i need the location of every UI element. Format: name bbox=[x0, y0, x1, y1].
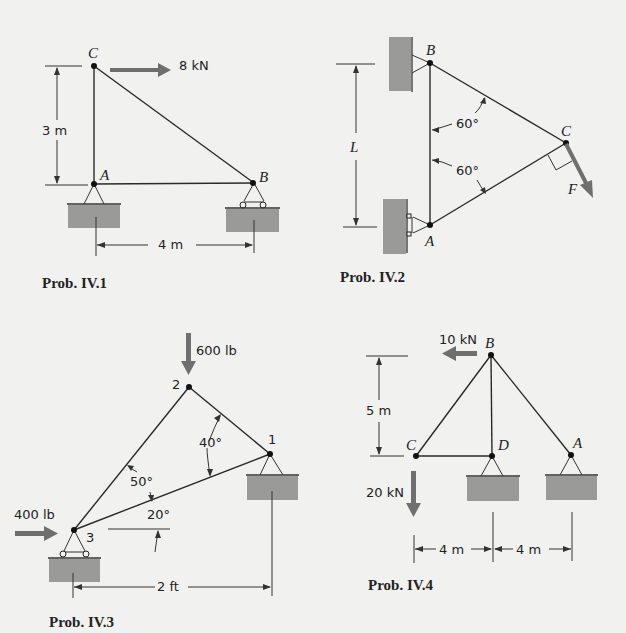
problem-iv-4: B C D A 10 kN 20 kN 5 m bbox=[366, 332, 598, 593]
dim-label-4m-da: 4 m bbox=[516, 542, 541, 557]
load-label-400lb: 400 lb bbox=[14, 507, 55, 522]
angle-label-60-top: 60° bbox=[456, 116, 479, 131]
node-label-a: A bbox=[572, 435, 583, 451]
load-label-f: F bbox=[567, 181, 578, 197]
dim-label-l: L bbox=[349, 139, 358, 155]
right-angle-mark bbox=[548, 155, 572, 170]
node-label-b: B bbox=[426, 42, 435, 58]
dim-label-2ft: 2 ft bbox=[157, 579, 179, 594]
joint-a bbox=[427, 222, 433, 228]
pin-support-a bbox=[545, 455, 598, 500]
roller-support-b bbox=[225, 183, 280, 232]
truss-problems-figure: C A B 8 kN 3 m 4 m Prob. IV.1 bbox=[0, 0, 626, 633]
problem-iv-3: 2 1 3 600 lb 400 lb 40° 50° bbox=[14, 333, 299, 630]
angle-label-40: 40° bbox=[199, 435, 222, 450]
joint-d bbox=[489, 453, 495, 459]
node-label-b: B bbox=[259, 169, 268, 185]
dim-label-5m: 5 m bbox=[366, 403, 391, 418]
angle-label-20: 20° bbox=[147, 507, 170, 522]
load-label-20kn: 20 kN bbox=[366, 485, 404, 500]
load-label-600lb: 600 lb bbox=[196, 343, 237, 358]
angle-label-50: 50° bbox=[130, 474, 153, 489]
load-label-8kn: 8 kN bbox=[179, 58, 209, 73]
wall-bottom bbox=[383, 199, 406, 254]
member-bc bbox=[416, 355, 491, 456]
member-32 bbox=[74, 387, 189, 530]
dim-label-3m: 3 m bbox=[42, 123, 67, 138]
node-label-a: A bbox=[99, 167, 110, 183]
member-bd bbox=[491, 355, 492, 456]
pin-support-d bbox=[466, 456, 520, 501]
angle-label-60-bottom: 60° bbox=[456, 163, 479, 178]
caption-prob-iv-1: Prob. IV.1 bbox=[42, 275, 107, 291]
joint-b bbox=[488, 352, 494, 358]
caption-prob-iv-2: Prob. IV.2 bbox=[340, 269, 405, 285]
node-label-d: D bbox=[497, 437, 509, 453]
joint-b bbox=[427, 60, 433, 66]
wall-top bbox=[389, 37, 411, 91]
node-label-2: 2 bbox=[172, 377, 180, 392]
pin-support-a bbox=[67, 184, 121, 228]
force-arrow-10kn bbox=[442, 346, 477, 361]
caption-prob-iv-3: Prob. IV.3 bbox=[49, 614, 114, 630]
load-label-10kn: 10 kN bbox=[439, 332, 477, 347]
member-ab bbox=[94, 183, 254, 184]
dim-label-4m-cd: 4 m bbox=[439, 542, 464, 557]
joint-b bbox=[250, 180, 256, 186]
node-label-c: C bbox=[561, 123, 572, 139]
node-label-b: B bbox=[485, 335, 494, 351]
joint-1 bbox=[267, 451, 273, 457]
force-arrow-8kn bbox=[110, 63, 171, 77]
joint-a bbox=[568, 452, 574, 458]
joint-a bbox=[91, 181, 97, 187]
dimension-4m-4m bbox=[414, 512, 572, 563]
member-cb bbox=[94, 66, 254, 183]
member-ac bbox=[430, 143, 566, 225]
node-label-3: 3 bbox=[86, 530, 94, 545]
node-label-1: 1 bbox=[268, 432, 276, 447]
node-label-c: C bbox=[406, 437, 417, 453]
problem-iv-1: C A B 8 kN 3 m 4 m Prob. IV.1 bbox=[42, 45, 280, 291]
node-label-a: A bbox=[424, 233, 435, 249]
dim-label-4m: 4 m bbox=[158, 237, 183, 252]
joint-2 bbox=[186, 384, 192, 390]
force-arrow-400lb bbox=[15, 526, 58, 541]
node-label-c: C bbox=[88, 45, 99, 61]
joint-c bbox=[413, 453, 419, 459]
joint-c bbox=[91, 63, 97, 69]
force-arrow-600lb bbox=[181, 333, 196, 375]
member-31 bbox=[74, 454, 270, 530]
caption-prob-iv-4: Prob. IV.4 bbox=[368, 577, 433, 593]
joint-3 bbox=[71, 527, 77, 533]
problem-iv-2: B A C F 60° 60° bbox=[336, 37, 593, 285]
force-arrow-20kn bbox=[406, 471, 421, 517]
member-bc bbox=[430, 63, 566, 143]
